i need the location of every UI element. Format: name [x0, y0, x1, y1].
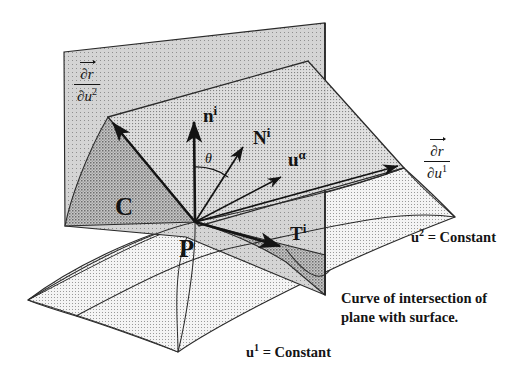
partial-u2-numerator: ∂r: [74, 66, 100, 84]
partial-u1-numerator: ∂r: [424, 143, 450, 161]
caption-line-1: Curve of intersection of: [341, 289, 487, 308]
partial-r-partial-u1-label: ∂r ∂u1: [424, 143, 450, 182]
u1-constant-label: u1 = Constant: [246, 343, 331, 359]
intersection-caption: Curve of intersection of plane with surf…: [341, 289, 487, 327]
curve-C-label: C: [115, 194, 133, 219]
tangent-vector-label: Ti: [290, 222, 306, 243]
figure-canvas: ∂r ∂u2 ∂r ∂u1 ni Ni uα Ti θ C P u2 = Con…: [0, 0, 532, 375]
principal-normal-label: Ni: [253, 126, 270, 147]
angle-theta-label: θ: [205, 152, 212, 166]
u2-constant-label: u2 = Constant: [411, 228, 496, 244]
partial-u1-denominator: ∂u1: [424, 161, 450, 182]
partial-r-partial-u2-label: ∂r ∂u2: [74, 66, 100, 105]
point-P-label: P: [179, 236, 194, 261]
surface-front-panel: [28, 222, 195, 352]
caption-line-2: plane with surface.: [341, 308, 487, 327]
normal-vector-label: ni: [203, 104, 217, 125]
n-vector: [194, 122, 195, 222]
partial-u2-denominator: ∂u2: [74, 84, 100, 105]
surface-vector-label: uα: [288, 148, 306, 169]
